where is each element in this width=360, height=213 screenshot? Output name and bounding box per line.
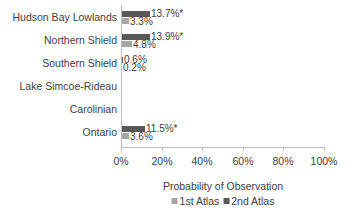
legend: 1st Atlas 2nd Atlas	[172, 195, 275, 207]
legend-label: 1st Atlas	[180, 195, 220, 207]
legend-swatch-icon	[223, 198, 229, 204]
category-label: Southern Shield	[42, 57, 117, 69]
x-tick-label: 40%	[191, 155, 212, 167]
x-tick	[243, 147, 244, 151]
bar-chart: Hudson Bay Lowlands Northern Shield Sout…	[0, 0, 360, 213]
category-label: Hudson Bay Lowlands	[13, 11, 117, 23]
bar-1st-atlas	[122, 41, 132, 47]
x-axis	[121, 147, 325, 148]
data-label: 3.6%	[130, 133, 153, 141]
category-label: Northern Shield	[44, 34, 117, 46]
x-tick-label: 80%	[272, 155, 293, 167]
legend-item-1st-atlas: 1st Atlas	[172, 195, 220, 207]
x-tick-label: 20%	[151, 155, 172, 167]
data-label: 13.7%*	[151, 10, 183, 18]
category-label: Ontario	[83, 126, 117, 138]
bar-1st-atlas	[122, 18, 129, 24]
x-tick	[202, 147, 203, 151]
x-tick-label: 100%	[311, 155, 338, 167]
x-tick	[121, 147, 122, 151]
bar-1st-atlas	[122, 133, 129, 139]
x-axis-label: Probability of Observation	[163, 180, 283, 192]
legend-label: 2nd Atlas	[231, 195, 274, 207]
data-label: 4.8%	[133, 41, 156, 49]
x-tick-label: 0%	[113, 155, 128, 167]
legend-item-2nd-atlas: 2nd Atlas	[223, 195, 274, 207]
data-label: 0.2%	[123, 64, 146, 72]
category-label: Lake Simcoe-Rideau	[20, 80, 117, 92]
x-tick	[162, 147, 163, 151]
data-label: 3.3%	[130, 18, 153, 26]
x-tick	[324, 147, 325, 151]
category-label: Carolinian	[70, 103, 117, 115]
x-tick	[283, 147, 284, 151]
x-tick-label: 60%	[232, 155, 253, 167]
legend-swatch-icon	[172, 198, 178, 204]
